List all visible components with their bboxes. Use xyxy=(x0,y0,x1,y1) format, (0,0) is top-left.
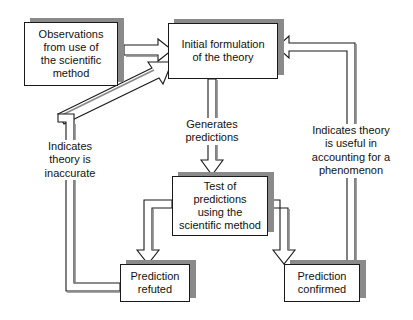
edge-label-indicates-theory-is-inaccurate: Indicates theory is inaccurate xyxy=(28,140,112,180)
edge-label-generates-predictions: Generates predictions xyxy=(170,118,254,145)
node-test-of-predictions[interactable]: Test of predictions using the scientific… xyxy=(172,176,268,236)
edge-label-indicates-theory-is-useful: Indicates theory is useful in accounting… xyxy=(299,124,403,178)
arrow-test-to-refuted xyxy=(137,200,172,264)
node-prediction-confirmed[interactable]: Prediction confirmed xyxy=(284,264,360,302)
node-initial-formulation-label: Initial formulation of the theory xyxy=(179,38,266,64)
node-initial-formulation[interactable]: Initial formulation of the theory xyxy=(168,23,278,79)
arrow-observations-to-theory xyxy=(124,39,172,61)
node-prediction-refuted[interactable]: Prediction refuted xyxy=(120,264,190,302)
node-observations-label: Observations from use of the scientific … xyxy=(37,28,106,80)
flowchart-diagram: Observations from use of the scientific … xyxy=(0,0,413,320)
node-prediction-confirmed-label: Prediction confirmed xyxy=(296,270,349,296)
node-prediction-refuted-label: Prediction refuted xyxy=(129,270,182,296)
node-test-of-predictions-label: Test of predictions using the scientific… xyxy=(177,180,263,232)
node-observations[interactable]: Observations from use of the scientific … xyxy=(24,22,118,86)
